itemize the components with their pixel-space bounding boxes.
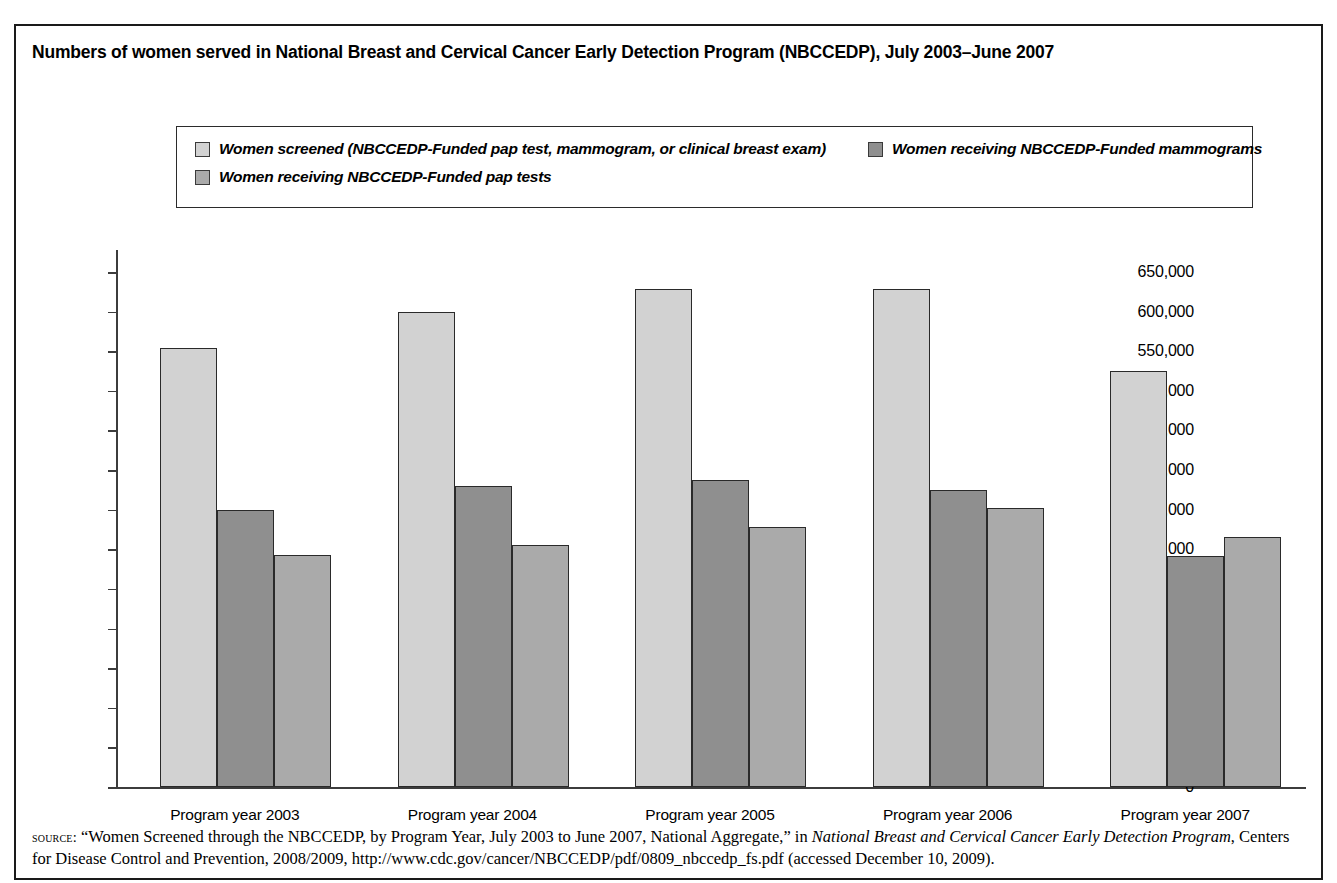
y-tick-mark [108,787,116,789]
y-tick-mark [108,589,116,591]
source-note: source: “Women Screened through the NBCC… [32,826,1312,870]
legend-swatch-icon-pap-tests [195,170,210,185]
bar[interactable] [692,480,749,787]
y-tick-mark [108,430,116,432]
y-tick-mark [108,708,116,710]
bar[interactable] [987,508,1044,787]
y-tick-mark [108,747,116,749]
y-tick-mark [108,351,116,353]
source-line1-pre: “Women Screened through the NBCCEDP, by … [77,827,812,846]
bar[interactable] [455,486,512,787]
bar[interactable] [217,510,274,787]
bar[interactable] [930,490,987,787]
bar-group [593,250,831,787]
y-tick-mark [108,312,116,314]
bar[interactable] [749,527,806,787]
legend-item-mammograms[interactable]: Women receiving NBCCEDP-Funded mammogram… [868,140,1262,158]
bar[interactable] [873,289,930,787]
source-line1-italic: National Breast and Cervical [812,827,1006,846]
y-tick-mark [108,272,116,274]
y-tick-mark [108,629,116,631]
legend-swatch-icon-mammograms [868,142,883,157]
y-tick-mark [108,510,116,512]
legend-label-women-screened: Women screened (NBCCEDP-Funded pap test,… [219,140,826,158]
source-line3: .pdf (accessed December 10, 2009). [758,849,995,868]
y-tick-mark [108,549,116,551]
source-line2-italic: Cancer Early Detection Program [1010,827,1231,846]
bar-group [356,250,594,787]
bar-group [118,250,356,787]
chart-legend: Women screened (NBCCEDP-Funded pap test,… [176,126,1253,208]
legend-label-mammograms: Women receiving NBCCEDP-Funded mammogram… [892,140,1262,158]
bar[interactable] [1224,537,1281,787]
legend-label-pap-tests: Women receiving NBCCEDP-Funded pap tests [219,168,551,186]
legend-item-women-screened[interactable]: Women screened (NBCCEDP-Funded pap test,… [195,140,826,158]
y-tick-mark [108,668,116,670]
plot-area: 650,000600,000550,000500,000450,000400,0… [116,250,1306,789]
x-axis-label: Program year 2004 [354,806,592,824]
bar[interactable] [512,545,569,787]
bar[interactable] [398,312,455,787]
legend-row-2: Women receiving NBCCEDP-Funded pap tests [195,168,1252,196]
x-axis-label: Program year 2005 [591,806,829,824]
bar[interactable] [1110,371,1167,787]
page-title: Numbers of women served in National Brea… [32,42,1302,63]
figure-container: Numbers of women served in National Brea… [14,24,1323,880]
bar[interactable] [274,555,331,787]
source-label: source: [32,829,77,845]
x-axis-line [116,787,1306,789]
x-axis-label: Program year 2003 [116,806,354,824]
legend-row-1: Women screened (NBCCEDP-Funded pap test,… [195,140,1252,168]
bar[interactable] [1167,556,1224,787]
y-tick-mark [108,470,116,472]
bar[interactable] [635,289,692,787]
x-axis-label: Program year 2007 [1066,806,1304,824]
y-tick-mark [108,391,116,393]
legend-item-pap-tests[interactable]: Women receiving NBCCEDP-Funded pap tests [195,168,551,186]
x-axis-label: Program year 2006 [829,806,1067,824]
bar-group [831,250,1069,787]
legend-swatch-icon-women-screened [195,142,210,157]
bar[interactable] [160,348,217,787]
bar-group [1068,250,1306,787]
bar-series-container [118,250,1306,787]
